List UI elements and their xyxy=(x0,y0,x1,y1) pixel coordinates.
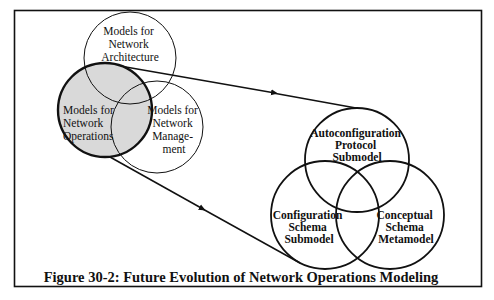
figure-canvas: Models for Network Architecture Models f… xyxy=(0,0,494,300)
architecture-label: Models for Network Architecture xyxy=(101,25,158,63)
figure-caption: Figure 30-2: Future Evolution of Network… xyxy=(44,269,439,285)
